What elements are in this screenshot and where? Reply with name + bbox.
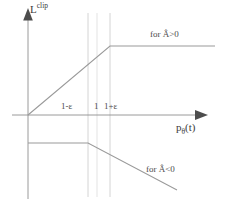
annotation-advantage-negative: for Â<0 (146, 165, 175, 174)
y-axis-label: Lclip (30, 4, 48, 15)
tick-label-1-minus-eps: 1-ε (61, 102, 72, 111)
y-axis-label-superscript: clip (37, 1, 48, 10)
curve-advantage-positive (28, 46, 215, 115)
y-axis (23, 8, 33, 199)
tick-label-1: 1 (94, 102, 99, 111)
y-axis-label-base: L (30, 3, 37, 15)
x-axis-label-tail: (t) (185, 121, 195, 133)
tick-label-1-plus-eps: 1+ε (104, 102, 117, 111)
x-axis-label: pθ(t) (176, 122, 195, 133)
clipped-objective-figure: Lclip pθ(t) 1-ε 1 1+ε for Â>0 for Â<0 (0, 0, 225, 209)
x-axis-arrowhead (195, 110, 208, 120)
annotation-advantage-positive: for Â>0 (150, 30, 179, 39)
